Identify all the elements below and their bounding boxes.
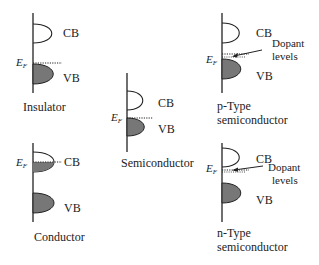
conduction-band — [127, 91, 143, 110]
dopant-arrow-head-icon — [232, 168, 238, 172]
conduction-band — [222, 23, 239, 43]
dopant-label-line1: Dopant — [268, 161, 300, 173]
panel-conductor: CB VB EF Conductor — [15, 143, 85, 244]
vb-label: VB — [63, 71, 80, 85]
valence-band — [222, 183, 241, 203]
panel-n-type: CB VB Dopant levels EF n-Type semiconduc… — [205, 143, 300, 254]
vb-label: VB — [256, 193, 273, 207]
vb-label: VB — [64, 201, 81, 215]
caption-insulator: Insulator — [23, 100, 66, 114]
dopant-arrow-line — [234, 166, 263, 170]
fermi-level-label: EF — [15, 156, 28, 170]
panel-insulator: CB VB EF Insulator — [15, 13, 80, 114]
panel-p-type: CB VB Dopant levels EF p-Type semiconduc… — [205, 13, 304, 127]
caption-conductor: Conductor — [34, 230, 85, 244]
fermi-level-label: EF — [205, 53, 218, 67]
caption-n-type-line1: n-Type — [217, 226, 251, 240]
fermi-level-label: EF — [110, 111, 123, 125]
valence-band — [222, 59, 241, 79]
cb-label: CB — [158, 96, 174, 110]
dopant-label-line2: levels — [272, 174, 298, 186]
conduction-band-filled — [33, 162, 54, 172]
conduction-band — [33, 24, 52, 43]
cb-label: CB — [63, 26, 79, 40]
caption-p-type-line2: semiconductor — [217, 113, 288, 127]
dopant-label-line1: Dopant — [272, 37, 304, 49]
panel-semiconductor: CB VB EF Semiconductor — [110, 73, 194, 170]
caption-n-type-line2: semiconductor — [217, 240, 288, 254]
valence-band — [33, 64, 53, 84]
caption-semiconductor: Semiconductor — [121, 156, 194, 170]
dopant-arrow-line — [234, 50, 262, 56]
vb-label: VB — [158, 122, 175, 136]
caption-p-type-line1: p-Type — [217, 99, 251, 113]
valence-band — [33, 193, 54, 213]
cb-label: CB — [256, 26, 272, 40]
fermi-level-label: EF — [15, 56, 28, 70]
conduction-band — [222, 148, 239, 167]
band-diagram-figure: CB VB EF Insulator CB VB EF Conductor CB… — [0, 0, 319, 265]
vb-label: VB — [256, 69, 273, 83]
cb-label: CB — [64, 155, 80, 169]
fermi-level-label: EF — [205, 162, 218, 176]
valence-band — [127, 118, 144, 136]
dopant-label-line2: levels — [272, 50, 298, 62]
